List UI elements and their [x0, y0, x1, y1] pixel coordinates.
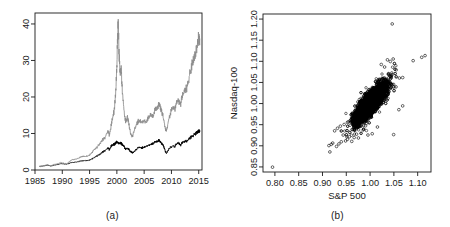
- scatter-point: [391, 66, 394, 69]
- scatter-point-outlier: [383, 66, 386, 69]
- panel-a-xtick-label: 1985: [25, 176, 45, 186]
- scatter-point: [360, 132, 363, 135]
- scatter-point-outlier: [353, 136, 356, 139]
- scatter-point-outlier: [392, 133, 395, 136]
- scatter-point-outlier: [398, 77, 401, 80]
- scatter-point-outlier: [420, 56, 423, 59]
- scatter-point: [393, 62, 396, 65]
- panel-a-xtick-label: 2010: [161, 176, 181, 186]
- scatter-point: [365, 87, 368, 90]
- scatter-point-outlier: [412, 59, 415, 62]
- panel-a-xtick-label: 2015: [188, 176, 208, 186]
- scatter-point: [368, 122, 371, 125]
- scatter-point-outlier: [376, 126, 379, 129]
- scatter-point-outlier: [367, 134, 370, 137]
- panel-b-ytick-label: 0.85: [249, 158, 259, 176]
- panel-b-xtick-label: 0.85: [290, 178, 308, 188]
- scatter-point: [394, 72, 397, 75]
- scatter-point: [378, 111, 381, 114]
- scatter-point-outlier: [271, 166, 274, 169]
- panel-b-ytick-label: 1.15: [249, 31, 259, 49]
- panel-b-ytick-label: 0.90: [249, 137, 259, 155]
- scatter-point-outlier: [380, 63, 383, 66]
- panel-b-ytick-label: 1.20: [249, 10, 259, 28]
- panel-b-xtick-label: 0.95: [337, 178, 355, 188]
- scatter-point-outlier: [401, 76, 404, 79]
- panel-a-ytick-label: 20: [21, 92, 31, 102]
- panel-a-ytick-label: 10: [21, 128, 31, 138]
- scatter-point-outlier: [343, 123, 346, 126]
- panel-a-ytick-label: 0: [21, 167, 31, 172]
- scatter-point-outlier: [329, 151, 332, 154]
- panel-b-ytick-label: 1.00: [249, 95, 259, 113]
- panel-b-xaxis-title: S&P 500: [328, 190, 366, 201]
- scatter-point-outlier: [346, 121, 349, 124]
- scatter-point-outlier: [357, 137, 360, 140]
- scatter-point: [381, 73, 384, 76]
- panel-b-xtick-label: 1.10: [409, 178, 427, 188]
- scatter-point-outlier: [389, 60, 392, 63]
- scatter-point-outlier: [336, 127, 339, 130]
- scatter-point-outlier: [346, 138, 349, 141]
- panel-b-plot-box: [263, 14, 431, 172]
- scatter-point-outlier: [348, 135, 351, 138]
- panel-a-ytick-label: 40: [21, 19, 31, 29]
- scatter-point: [349, 131, 352, 134]
- panel-a-series-line: [39, 129, 199, 166]
- scatter-point: [345, 112, 348, 115]
- panel-b-xtick-label: 1.05: [385, 178, 403, 188]
- scatter-point-outlier: [392, 58, 395, 61]
- scatter-point-outlier: [338, 143, 341, 146]
- panel-b-xtick-label: 1.00: [361, 178, 379, 188]
- panel-a-xtick-label: 2005: [134, 176, 154, 186]
- scatter-point: [395, 76, 398, 79]
- panel-b-caption: (b): [225, 210, 450, 221]
- scatter-point: [340, 130, 343, 133]
- panel-b-ytick-label: 1.05: [249, 73, 259, 91]
- panel-a-xtick-label: 1995: [79, 176, 99, 186]
- panel-b-point-cloud: [271, 23, 426, 169]
- scatter-point-outlier: [340, 140, 343, 143]
- scatter-point-outlier: [398, 108, 401, 111]
- scatter-point: [384, 102, 387, 105]
- scatter-point-outlier: [350, 140, 353, 143]
- panel-b-scatter-chart: 0.800.850.900.951.001.051.100.850.900.95…: [225, 0, 450, 227]
- figure-container: 1985199019952000200520102015010203040 (a…: [0, 0, 450, 227]
- panel-a-xtick-label: 1990: [52, 176, 72, 186]
- scatter-point-outlier: [391, 23, 394, 26]
- panel-a-xtick-label: 2000: [107, 176, 127, 186]
- scatter-point: [365, 129, 368, 132]
- scatter-point-outlier: [401, 105, 404, 108]
- scatter-point-outlier: [371, 132, 374, 135]
- scatter-point-outlier: [335, 145, 338, 148]
- panel-b-ytick-label: 1.10: [249, 52, 259, 70]
- panel-a-ytick-label: 30: [21, 55, 31, 65]
- panel-b-xtick-label: 0.80: [266, 178, 284, 188]
- scatter-point-outlier: [339, 125, 342, 128]
- panel-a-caption: (a): [0, 210, 225, 221]
- panel-b-yaxis-title: Nasdaq-100: [228, 67, 239, 119]
- panel-b-xtick-label: 0.90: [314, 178, 332, 188]
- scatter-point-outlier: [386, 58, 389, 61]
- panel-b-plot: 0.800.850.900.951.001.051.100.850.900.95…: [225, 0, 450, 227]
- panel-b-ytick-label: 0.95: [249, 116, 259, 134]
- scatter-point: [346, 129, 349, 132]
- panel-a-timeseries-chart: 1985199019952000200520102015010203040 (a…: [0, 0, 225, 227]
- panel-a-plot: 1985199019952000200520102015010203040: [0, 0, 225, 227]
- scatter-point-outlier: [424, 54, 427, 57]
- scatter-point-outlier: [333, 129, 336, 132]
- scatter-point: [354, 105, 357, 108]
- scatter-point: [346, 125, 349, 128]
- scatter-point: [360, 91, 363, 94]
- scatter-point: [343, 130, 346, 133]
- scatter-point-outlier: [342, 134, 345, 137]
